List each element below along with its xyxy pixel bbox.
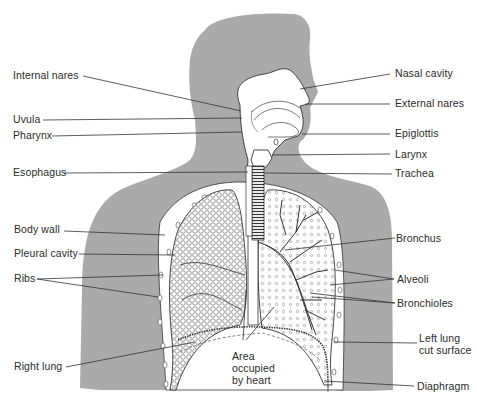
label-esophagus: Esophagus [13,166,66,178]
label-internal-nares: Internal nares [13,69,79,81]
label-epiglottis: Epiglottis [395,127,439,139]
respiratory-diagram [0,0,477,406]
label-bronchus: Bronchus [396,232,441,244]
label-right-lung: Right lung [14,360,62,372]
trachea-shape [252,166,264,240]
label-left-lung-cut-surface: Left lung cut surface [419,332,471,356]
label-trachea: Trachea [395,167,434,179]
label-diaphragm: Diaphragm [417,380,469,392]
label-ribs: Ribs [14,272,35,284]
label-uvula: Uvula [13,113,40,125]
label-bronchioles: Bronchioles [397,297,453,309]
label-alveoli: Alveoli [397,273,429,285]
label-pleural-cavity: Pleural cavity [14,247,78,259]
label-external-nares: External nares [395,97,464,109]
label-body-wall: Body wall [14,223,60,235]
label-area-occupied-by-heart: Area occupied by heart [232,350,275,386]
label-pharynx: Pharynx [13,129,52,141]
label-nasal-cavity: Nasal cavity [395,67,453,79]
label-larynx: Larynx [395,148,427,160]
